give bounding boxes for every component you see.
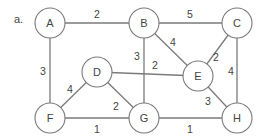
edge-weight-G-H: 1 xyxy=(187,123,193,135)
node-H: H xyxy=(222,103,252,133)
edge-weight-B-G: 3 xyxy=(134,50,140,62)
node-A: A xyxy=(35,8,65,38)
svg-text:H: H xyxy=(233,112,241,124)
node-D: D xyxy=(82,57,112,87)
svg-text:C: C xyxy=(233,17,241,29)
node-E: E xyxy=(183,61,213,91)
edge-weight-E-H: 3 xyxy=(205,95,211,107)
node-B: B xyxy=(129,8,159,38)
svg-text:B: B xyxy=(140,17,147,29)
svg-text:E: E xyxy=(194,70,201,82)
edge-weight-C-H: 4 xyxy=(228,65,234,77)
svg-text:D: D xyxy=(93,66,101,78)
edge-weight-C-E: 2 xyxy=(213,51,219,63)
edge-weight-D-G: 2 xyxy=(113,100,119,112)
edge-weight-D-F: 4 xyxy=(67,83,73,95)
svg-text:G: G xyxy=(140,112,149,124)
svg-text:A: A xyxy=(46,17,54,29)
edge-weight-A-F: 3 xyxy=(40,65,46,77)
svg-text:F: F xyxy=(47,112,54,124)
edge-weight-B-E: 4 xyxy=(170,36,176,48)
weighted-graph: 2534324242311ABCDEFGH xyxy=(0,0,264,137)
node-F: F xyxy=(35,103,65,133)
edge-weight-B-C: 5 xyxy=(187,8,193,20)
edge-weight-F-G: 1 xyxy=(94,123,100,135)
node-C: C xyxy=(222,8,252,38)
edge-weight-A-B: 2 xyxy=(94,8,100,20)
node-G: G xyxy=(129,103,159,133)
edge-weight-D-E: 2 xyxy=(152,59,158,71)
